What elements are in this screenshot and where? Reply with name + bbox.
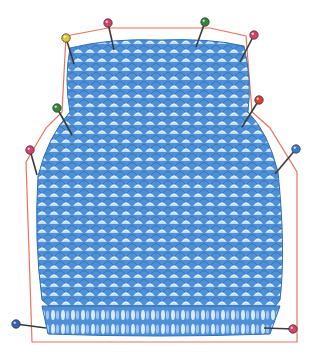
pin-highlight: [63, 36, 65, 38]
pin-highlight: [28, 148, 30, 150]
blocked-knit-piece-artwork: [0, 0, 319, 360]
pin-head-icon: [289, 325, 297, 333]
pin-head-icon: [292, 145, 300, 153]
pin-head-icon: [53, 104, 61, 112]
pin-head-icon: [201, 18, 209, 26]
knitting-blocking-illustration: [0, 0, 319, 360]
pin-head-icon: [104, 19, 112, 27]
pin-head-icon: [62, 34, 70, 42]
pin-highlight: [257, 98, 259, 100]
knitted-body: [37, 40, 283, 312]
right-armhole-pin: [275, 145, 300, 174]
pin-head-icon: [26, 146, 34, 154]
pin-highlight: [55, 106, 57, 108]
pin-highlight: [14, 322, 16, 324]
pin-highlight: [291, 327, 293, 329]
pin-head-icon: [12, 320, 20, 328]
pin-head-icon: [255, 96, 263, 104]
pin-head-icon: [250, 31, 258, 39]
pin-highlight: [294, 147, 296, 149]
pin-highlight: [252, 33, 254, 35]
bottom-left-pin: [12, 320, 46, 328]
pin-highlight: [106, 21, 108, 23]
pin-highlight: [203, 20, 205, 22]
ribbed-hem: [42, 306, 280, 336]
